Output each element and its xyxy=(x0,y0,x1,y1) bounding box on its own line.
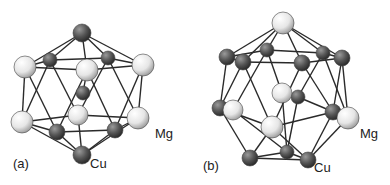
element-label-cu: Cu xyxy=(314,160,331,175)
bond xyxy=(50,58,108,60)
element-label-mg: Mg xyxy=(360,126,378,141)
atom-cu xyxy=(101,51,115,65)
bond xyxy=(267,50,323,53)
atom-cu xyxy=(76,86,90,100)
bond xyxy=(287,97,298,152)
cluster-panel-a: (a)MgCu xyxy=(11,24,173,171)
atom-mg xyxy=(127,107,149,129)
atom-cu xyxy=(73,24,91,42)
atom-mg xyxy=(272,12,294,34)
atom-cu xyxy=(291,90,305,104)
atom-mg xyxy=(76,59,98,81)
bond xyxy=(243,62,302,63)
atom-mg xyxy=(261,116,283,138)
panel-label: (b) xyxy=(203,158,219,173)
panel-label: (a) xyxy=(13,156,29,171)
atom-cu xyxy=(219,49,235,65)
atom-cu xyxy=(334,50,350,66)
atom-cu xyxy=(43,53,57,67)
atom-cu xyxy=(316,46,330,60)
atom-cu xyxy=(280,145,294,159)
atom-cu xyxy=(242,150,258,166)
atom-mg xyxy=(68,105,88,125)
atom-mg xyxy=(272,83,292,103)
cluster-panel-b: (b)MgCu xyxy=(203,12,378,175)
cluster-diagram: (a)MgCu (b)MgCu xyxy=(0,0,390,185)
atom-cu xyxy=(49,124,65,140)
atom-cu xyxy=(235,54,251,70)
atom-mg xyxy=(223,100,243,120)
atom-mg xyxy=(14,56,36,78)
atom-cu xyxy=(260,43,274,57)
atom-cu xyxy=(294,55,310,71)
atom-mg xyxy=(11,111,33,133)
atom-mg xyxy=(337,107,359,129)
element-label-cu: Cu xyxy=(90,156,107,171)
atom-cu xyxy=(73,146,91,164)
element-label-mg: Mg xyxy=(155,126,173,141)
atom-cu xyxy=(107,122,123,138)
bond xyxy=(57,130,115,132)
atom-mg xyxy=(132,54,154,76)
atoms-a xyxy=(11,24,154,164)
bond xyxy=(250,158,308,160)
